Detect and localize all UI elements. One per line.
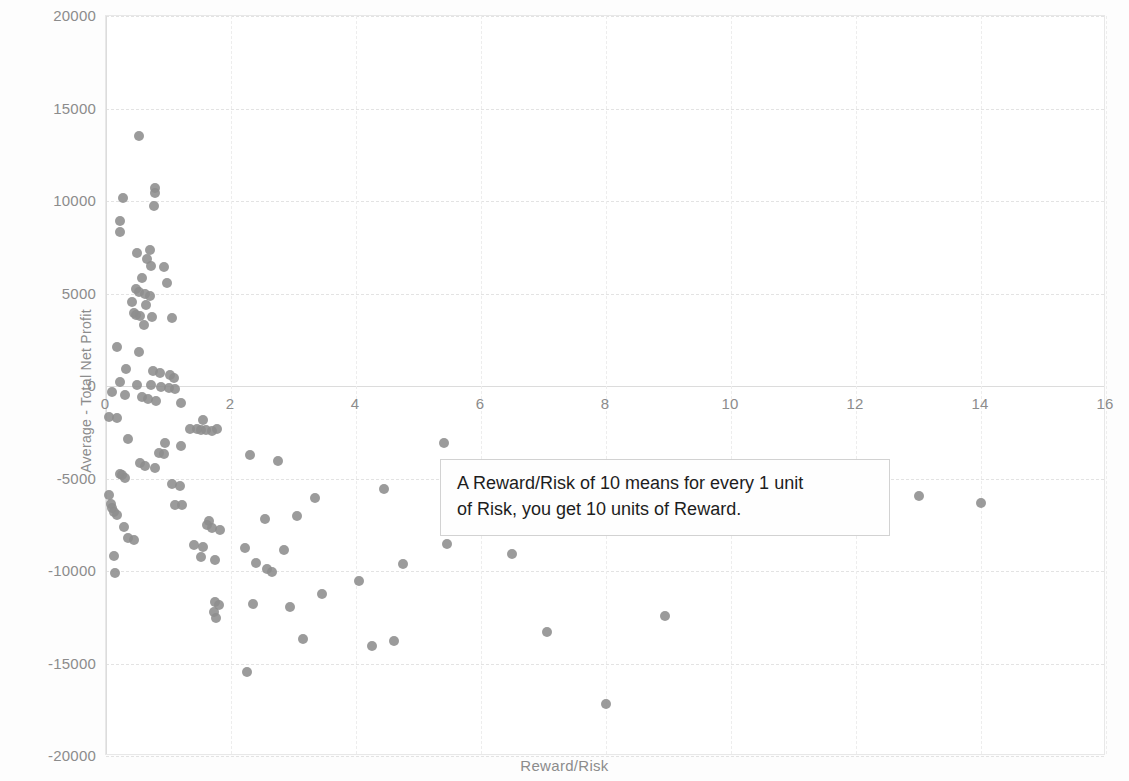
x-axis-title: Reward/Risk (0, 757, 1129, 774)
data-point (292, 511, 302, 521)
data-point (112, 510, 122, 520)
data-point (210, 555, 220, 565)
data-point (298, 634, 308, 644)
scatter-chart: Average - Total Net Profit Reward/Risk A… (0, 0, 1129, 781)
data-point (267, 567, 277, 577)
gridline-vertical (606, 16, 607, 754)
data-point (120, 473, 130, 483)
gridline-vertical (481, 16, 482, 754)
data-point (134, 347, 144, 357)
data-point (112, 413, 122, 423)
data-point (175, 481, 185, 491)
data-point (398, 559, 408, 569)
data-point (367, 641, 377, 651)
data-point (150, 463, 160, 473)
data-point (170, 384, 180, 394)
data-point (169, 373, 179, 383)
data-point (115, 227, 125, 237)
data-point (240, 543, 250, 553)
y-axis-tick-label: -5000 (10, 469, 96, 486)
data-point (542, 627, 552, 637)
data-point (212, 424, 222, 434)
data-point (139, 320, 149, 330)
data-point (279, 545, 289, 555)
data-point (214, 600, 224, 610)
data-point (137, 273, 147, 283)
gridline-vertical (856, 16, 857, 754)
y-axis-line (106, 16, 107, 754)
data-point (121, 364, 131, 374)
data-point (155, 368, 165, 378)
data-point (215, 525, 225, 535)
data-point (976, 498, 986, 508)
data-point (285, 602, 295, 612)
plot-area (105, 15, 1105, 755)
data-point (507, 549, 517, 559)
data-point (245, 450, 255, 460)
y-axis-tick-label: -10000 (10, 562, 96, 579)
x-axis-tick-label: 8 (601, 395, 610, 412)
data-point (119, 522, 129, 532)
data-point (273, 456, 283, 466)
gridline-vertical (231, 16, 232, 754)
x-axis-tick-label: 12 (846, 395, 863, 412)
data-point (149, 201, 159, 211)
data-point (146, 380, 156, 390)
data-point (914, 491, 924, 501)
data-point (127, 297, 137, 307)
data-point (134, 131, 144, 141)
annotation-line-2: of Risk, you get 10 units of Reward. (457, 497, 873, 523)
data-point (211, 613, 221, 623)
gridline-vertical (356, 16, 357, 754)
data-point (177, 500, 187, 510)
data-point (110, 568, 120, 578)
gridline-horizontal (106, 109, 1104, 110)
data-point (141, 300, 151, 310)
gridline-horizontal (106, 664, 1104, 665)
data-point (196, 552, 206, 562)
x-axis-tick-label: 4 (351, 395, 360, 412)
data-point (242, 667, 252, 677)
y-axis-tick-label: 10000 (10, 192, 96, 209)
data-point (442, 539, 452, 549)
y-axis-tick-label: 20000 (10, 7, 96, 24)
data-point (379, 484, 389, 494)
y-axis-tick-label: 0 (10, 377, 96, 394)
y-axis-tick-label: 15000 (10, 99, 96, 116)
data-point (389, 636, 399, 646)
data-point (160, 438, 170, 448)
data-point (439, 438, 449, 448)
data-point (162, 278, 172, 288)
y-axis-tick-label: -15000 (10, 654, 96, 671)
x-axis-tick-label: 16 (1096, 395, 1113, 412)
gridline-horizontal (106, 16, 1104, 17)
gridline-vertical (981, 16, 982, 754)
data-point (150, 188, 160, 198)
data-point (167, 313, 177, 323)
data-point (176, 398, 186, 408)
data-point (112, 342, 122, 352)
data-point (317, 589, 327, 599)
data-point (310, 493, 320, 503)
data-point (260, 514, 270, 524)
x-axis-tick-label: 2 (226, 395, 235, 412)
data-point (189, 540, 199, 550)
data-point (115, 377, 125, 387)
data-point (660, 611, 670, 621)
data-point (132, 248, 142, 258)
x-axis-tick-label: 14 (971, 395, 988, 412)
y-axis-tick-label: 5000 (10, 284, 96, 301)
data-point (159, 449, 169, 459)
annotation-line-1: A Reward/Risk of 10 means for every 1 un… (457, 471, 873, 497)
x-axis-line (106, 386, 1104, 387)
x-axis-tick-label: 6 (476, 395, 485, 412)
data-point (120, 390, 130, 400)
data-point (146, 261, 156, 271)
gridline-horizontal (106, 571, 1104, 572)
x-axis-tick-label: 0 (101, 395, 110, 412)
gridline-horizontal (106, 201, 1104, 202)
data-point (198, 542, 208, 552)
data-point (159, 262, 169, 272)
data-point (115, 216, 125, 226)
data-point (354, 576, 364, 586)
